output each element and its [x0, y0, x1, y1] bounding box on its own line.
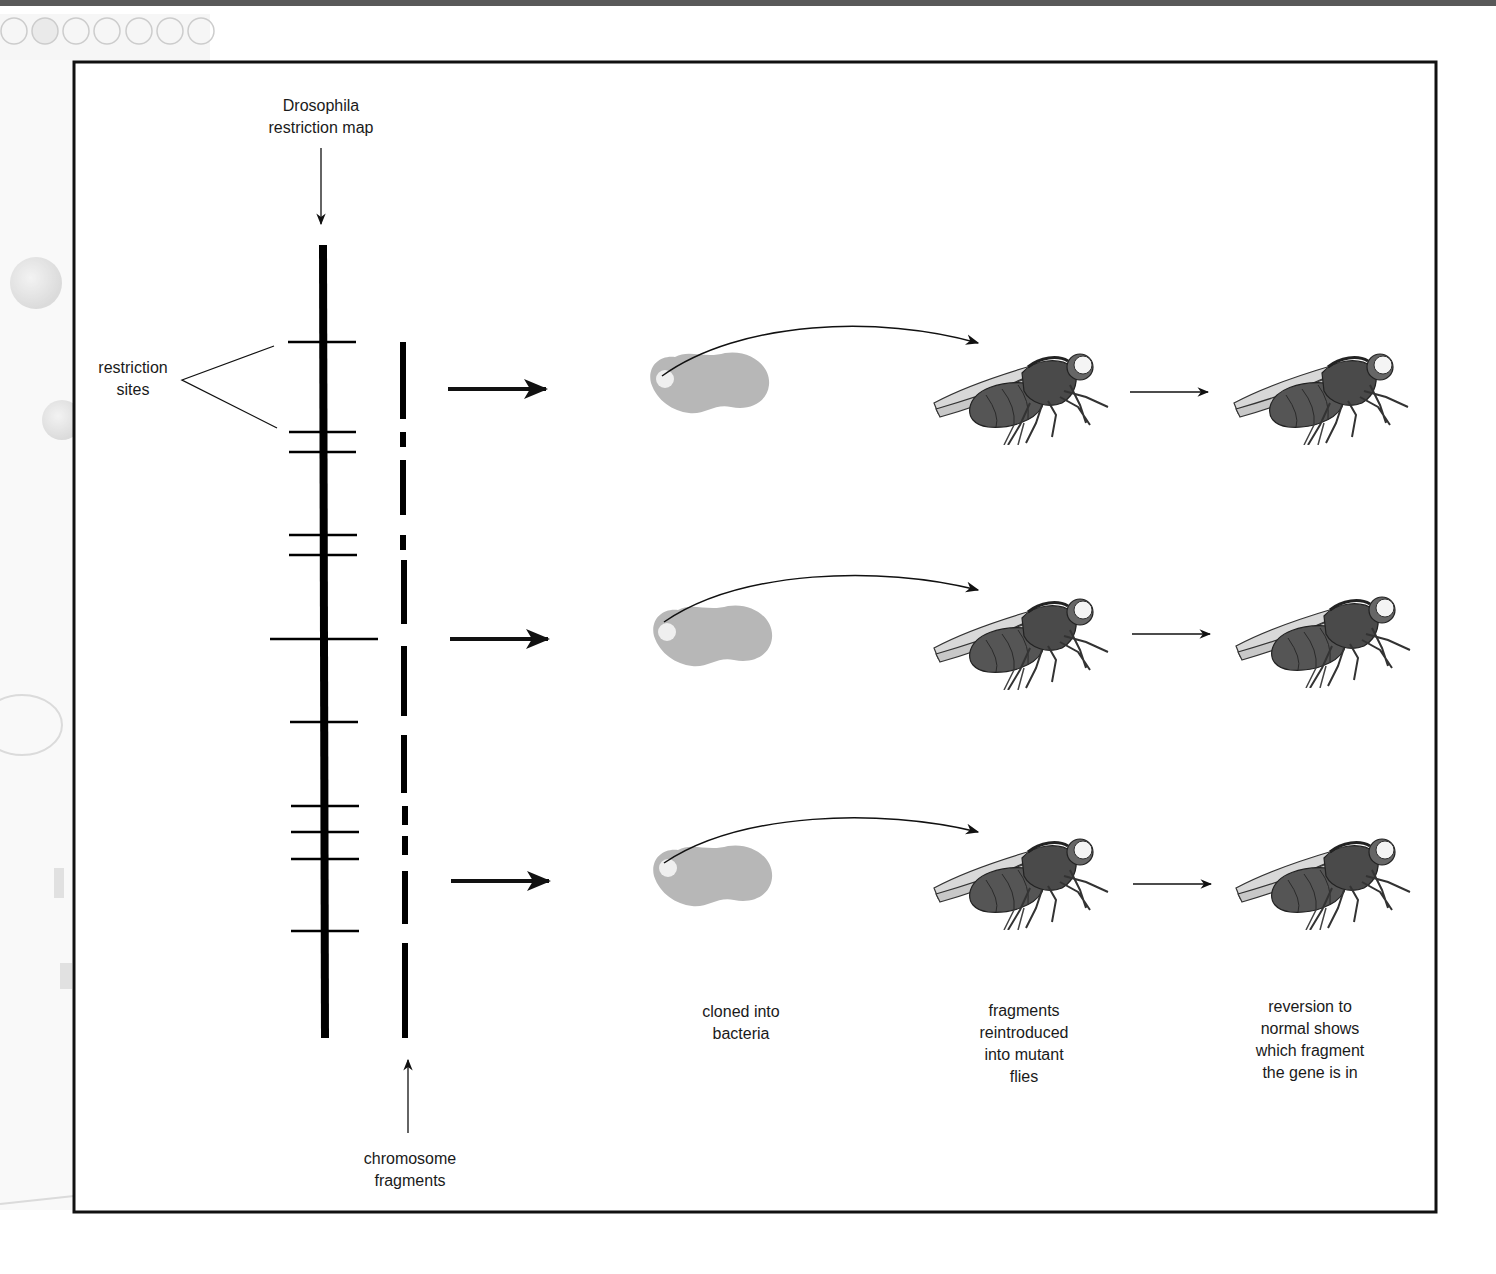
chromosome-bar [323, 245, 325, 1038]
plasmid-dot-icon [658, 623, 676, 641]
reversion-label: reversion to normal shows which fragment… [1256, 996, 1365, 1084]
restriction-sites-label: restriction sites [98, 357, 167, 401]
plasmid-dot-icon [659, 859, 677, 877]
cloned-into-bacteria-label: cloned into bacteria [702, 1001, 779, 1045]
chromosome-fragments-label: chromosome fragments [364, 1148, 456, 1192]
fragments-reintroduced-label: fragments reintroduced into mutant flies [980, 1000, 1069, 1088]
plasmid-dot-icon [656, 370, 674, 388]
restriction-map-label: Drosophila restriction map [269, 95, 374, 139]
